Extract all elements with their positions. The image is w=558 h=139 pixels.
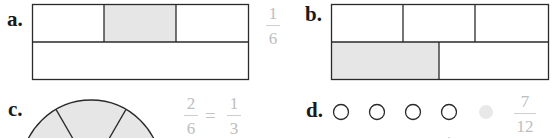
problem-a-label: a.: [7, 9, 23, 30]
answer-d-fraction: 7 12: [514, 93, 536, 135]
equals-sign: =: [205, 105, 216, 127]
problem-d-label: d.: [306, 100, 323, 121]
figure-c-circle: [21, 100, 161, 138]
open-circle: [406, 105, 421, 120]
numerator: 2: [184, 95, 198, 112]
problem-b-label: b.: [305, 4, 322, 25]
fraction-bar: [184, 115, 198, 116]
open-circle: [370, 105, 385, 120]
problem-c-label: c.: [8, 99, 23, 120]
open-circle: [334, 105, 349, 120]
numerator: 1: [266, 5, 280, 22]
fraction-bar: [514, 113, 536, 114]
figure-d-circles: [334, 105, 494, 139]
numerator: 7: [514, 93, 536, 110]
numerator: 1: [227, 95, 241, 112]
fraction-bar: [227, 115, 241, 116]
shaded-part: [332, 42, 439, 79]
answer-c-right-fraction: 1 3: [227, 95, 241, 137]
figure-a-rectangle: [33, 5, 249, 80]
fraction-bar: [266, 25, 280, 26]
denominator: 3: [227, 120, 241, 137]
denominator: 12: [514, 118, 536, 135]
answer-c-left-fraction: 2 6: [184, 95, 198, 137]
figure-b-rectangle: [332, 5, 549, 80]
denominator: 6: [184, 120, 198, 137]
shaded-circle: [479, 105, 493, 119]
open-circle: [442, 105, 457, 120]
shaded-part: [104, 5, 176, 42]
answer-a-fraction: 1 6: [266, 5, 280, 47]
denominator: 6: [266, 30, 280, 47]
